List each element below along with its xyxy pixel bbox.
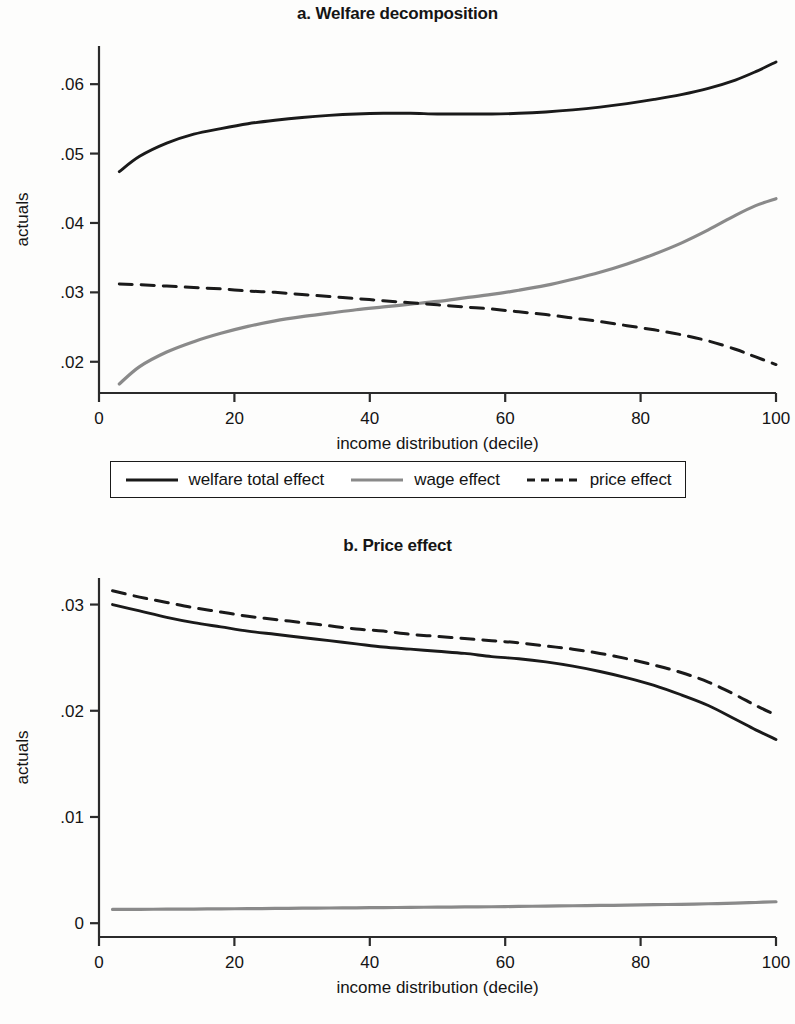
x-tick-label: 40 (360, 409, 379, 428)
x-axis-title: income distribution (decile) (336, 434, 538, 453)
x-tick-label: 80 (631, 953, 650, 972)
x-tick-label: 80 (631, 409, 650, 428)
panel-a-plot: .02.03.04.05.06020406080100income distri… (0, 0, 795, 460)
series-line-food-prices (113, 605, 776, 740)
y-tick-label: .06 (60, 75, 84, 94)
y-tick-label: .05 (60, 145, 84, 164)
y-tick-label: .03 (60, 283, 84, 302)
y-tick-label: 0 (75, 914, 84, 933)
x-tick-label: 20 (225, 409, 244, 428)
panel-a-legend-label: welfare total effect (189, 470, 325, 490)
panel-a-legend-item: price effect (526, 470, 672, 490)
x-tick-label: 60 (496, 953, 515, 972)
series-line-wage-effect (119, 199, 776, 384)
series-line-nonfood-prices (113, 902, 776, 910)
y-axis-title: actuals (13, 731, 32, 785)
x-tick-label: 0 (94, 409, 103, 428)
y-tick-label: .01 (60, 808, 84, 827)
x-tick-label: 60 (496, 409, 515, 428)
panel-a-legend-item: welfare total effect (125, 470, 325, 490)
y-tick-label: .02 (60, 702, 84, 721)
x-tick-label: 100 (762, 953, 790, 972)
x-tick-label: 20 (225, 953, 244, 972)
x-tick-label: 100 (762, 409, 790, 428)
x-axis-title: income distribution (decile) (336, 978, 538, 997)
figure-page: a. Welfare decomposition .02.03.04.05.06… (0, 0, 795, 1024)
y-tick-label: .02 (60, 353, 84, 372)
panel-a-legend: welfare total effectwage effectprice eff… (110, 461, 686, 498)
panel-a-legend-label: wage effect (414, 470, 500, 490)
dashed-line-icon (526, 473, 580, 487)
x-tick-label: 40 (360, 953, 379, 972)
series-line-welfare-total-effect (119, 62, 776, 172)
panel-a-legend-item: wage effect (350, 470, 500, 490)
x-tick-label: 0 (94, 953, 103, 972)
panel-welfare-decomposition: a. Welfare decomposition .02.03.04.05.06… (0, 0, 795, 512)
y-axis-title: actuals (13, 193, 32, 247)
y-tick-label: .03 (60, 596, 84, 615)
panel-b-title: b. Price effect (0, 536, 795, 556)
panel-a-legend-label: price effect (590, 470, 672, 490)
solid-line-icon (125, 473, 179, 487)
panel-b-plot: 0.01.02.03020406080100income distributio… (0, 556, 795, 1024)
y-tick-label: .04 (60, 214, 84, 233)
series-line-price-effect (119, 284, 776, 365)
solid-line-icon (350, 473, 404, 487)
panel-price-effect: b. Price effect 0.01.02.03020406080100in… (0, 512, 795, 1024)
